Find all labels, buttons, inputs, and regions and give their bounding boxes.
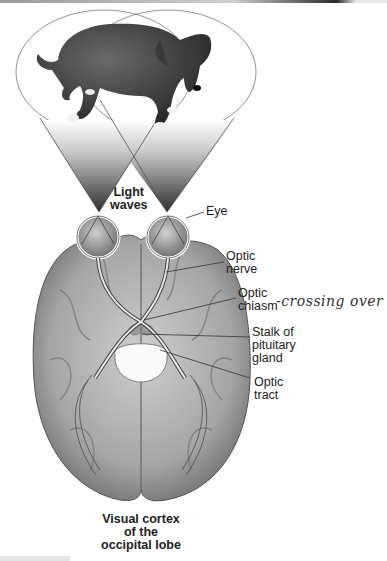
handwritten-annotation: -crossing over — [276, 293, 383, 309]
label-visual-cortex-line3: occipital lobe — [92, 539, 190, 552]
label-stalk-of-pituitary-gland: Stalk of pituitary gland — [252, 326, 296, 365]
label-optic-nerve-line2: nerve — [226, 263, 257, 276]
dog-icon — [37, 24, 212, 128]
label-light-waves: Light waves — [110, 186, 148, 212]
label-visual-cortex: Visual cortex of the occipital lobe — [92, 513, 190, 552]
label-optic-nerve: Optic nerve — [226, 250, 257, 276]
bottom-edge-bar — [0, 556, 70, 561]
label-stalk-line3: gland — [252, 352, 296, 365]
label-optic-tract: Optic tract — [254, 376, 283, 402]
label-eye: Eye — [206, 205, 228, 218]
visual-pathway-illustration — [0, 0, 387, 561]
label-optic-tract-line2: tract — [254, 389, 283, 402]
label-optic-chiasm: Optic chiasm — [238, 287, 278, 313]
label-optic-chiasm-line2: chiasm — [238, 300, 278, 313]
label-light-waves-line2: waves — [110, 199, 148, 212]
